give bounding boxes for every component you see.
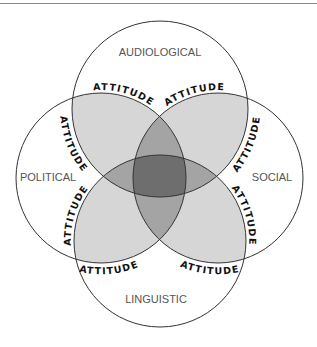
label-audiological: AUDIOLOGICAL xyxy=(119,46,202,58)
venn-diagram: AUDIOLOGICAL POLITICAL SOCIAL LINGUISTIC… xyxy=(0,0,317,347)
label-social: SOCIAL xyxy=(252,171,292,183)
label-linguistic: LINGUISTIC xyxy=(125,293,187,305)
label-political: POLITICAL xyxy=(20,171,76,183)
